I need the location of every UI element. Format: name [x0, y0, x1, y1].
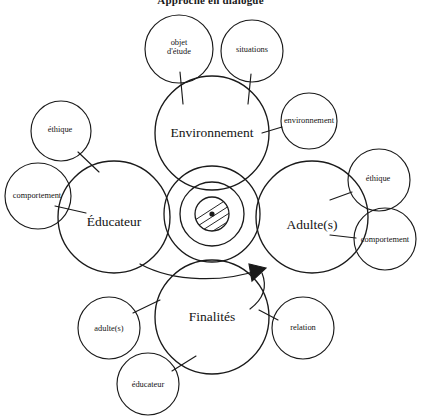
satellite-circle-educateur[interactable]: [117, 353, 179, 415]
satellite-circle-environnement[interactable]: [281, 93, 337, 149]
connector-environnement-sat: [262, 127, 282, 133]
satellite-circle-comportement-left[interactable]: [5, 163, 71, 229]
main-circle-educateur[interactable]: [58, 161, 170, 273]
satellite-circle-adultes[interactable]: [78, 297, 140, 359]
flow-arrow-arc: [140, 264, 259, 279]
satellite-circle-ethique-left[interactable]: [31, 101, 91, 161]
connector-objet-etude: [180, 72, 183, 104]
satellite-circle-objet-etude[interactable]: [145, 15, 213, 83]
satellite-circle-ethique-right[interactable]: [348, 149, 410, 211]
connector-comportement-right: [330, 235, 356, 238]
connector-ethique-right: [330, 192, 352, 200]
diagram-canvas: Approche en dialogue: [0, 0, 421, 420]
core-center-dot: [209, 211, 214, 216]
concept-map-svg: [0, 0, 421, 420]
main-circle-environnement[interactable]: [155, 76, 269, 190]
connector-educateur-sat: [172, 356, 196, 371]
satellite-circle-relation[interactable]: [272, 297, 334, 359]
satellite-circle-situations[interactable]: [221, 20, 283, 82]
connector-ethique-left: [78, 152, 99, 172]
connector-comportement-left: [55, 206, 86, 213]
main-circle-adultes[interactable]: [256, 161, 368, 273]
